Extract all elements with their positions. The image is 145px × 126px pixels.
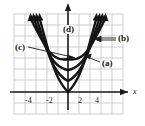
- callout-label-c: (c): [14, 43, 26, 52]
- x-tick-label-minus2: -2: [46, 97, 53, 105]
- callout-label-d: (d): [62, 25, 75, 34]
- graph-canvas: [0, 0, 145, 126]
- x-axis-label: x: [133, 88, 137, 96]
- parabola-family-figure: (a) (b) (c) (d) -4 -2 2 4 x: [0, 0, 145, 126]
- x-tick-label-2: 2: [78, 97, 82, 105]
- callout-label-b: (b): [117, 34, 130, 43]
- callout-label-a: (a): [101, 59, 114, 68]
- x-tick-label-minus4: -4: [25, 97, 32, 105]
- y-axis-arrow: [65, 3, 71, 11]
- x-axis-arrow: [120, 89, 128, 95]
- x-tick-label-4: 4: [95, 97, 99, 105]
